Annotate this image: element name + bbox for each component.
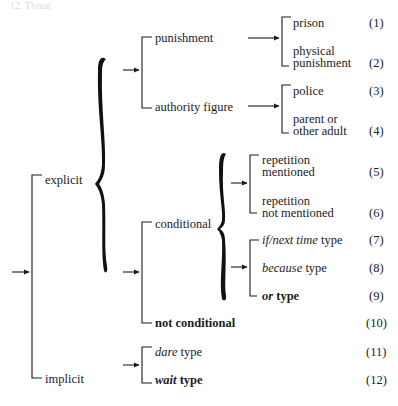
code-11: (11): [366, 346, 386, 358]
node-punishment: punishment: [155, 32, 213, 44]
threat-classification-diagram: 12. Threat: [0, 0, 398, 406]
code-5: (5): [369, 166, 384, 178]
code-10: (10): [366, 317, 387, 329]
leaf-dare-type: dare type: [155, 346, 202, 358]
leaf-if-next-time-type: if/next time type: [262, 234, 343, 246]
leaf-physical-line2: punishment: [293, 57, 351, 69]
code-1: (1): [369, 17, 384, 29]
large-brace: [95, 58, 107, 273]
leaf-parent-line2: other adult: [293, 125, 347, 137]
code-9: (9): [369, 290, 384, 302]
code-12: (12): [366, 374, 387, 386]
leaf-rep-not-line2: not mentioned: [262, 207, 334, 219]
small-brace: [217, 153, 226, 300]
leaf-wait-type: wait type: [155, 374, 203, 386]
code-8: (8): [369, 262, 384, 274]
code-4: (4): [369, 125, 384, 137]
root-bracket: [32, 175, 42, 378]
leaf-because-type: because type: [262, 262, 327, 274]
node-not-conditional: not conditional: [155, 317, 235, 329]
node-explicit: explicit: [45, 174, 83, 186]
node-conditional: conditional: [155, 218, 211, 230]
leaf-rep-mentioned-line2: mentioned: [262, 166, 315, 178]
node-implicit: implicit: [45, 373, 84, 385]
leaf-or-type: or type: [262, 290, 299, 302]
node-authority-figure: authority figure: [155, 101, 233, 113]
code-6: (6): [369, 207, 384, 219]
leaf-police: police: [293, 85, 324, 97]
leaf-prison: prison: [293, 17, 324, 29]
code-2: (2): [369, 57, 384, 69]
code-7: (7): [369, 234, 384, 246]
code-3: (3): [369, 85, 384, 97]
